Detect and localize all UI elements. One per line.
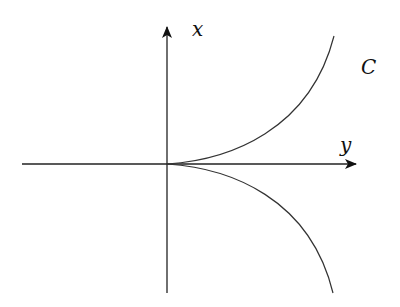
horizontal-axis-label: y bbox=[339, 133, 352, 157]
curve-label: C bbox=[361, 55, 376, 79]
curve-upper-branch bbox=[167, 36, 334, 164]
vertical-axis-label: x bbox=[192, 17, 203, 41]
curve-lower-branch bbox=[167, 164, 333, 293]
diagram-canvas: x y C bbox=[0, 0, 400, 307]
